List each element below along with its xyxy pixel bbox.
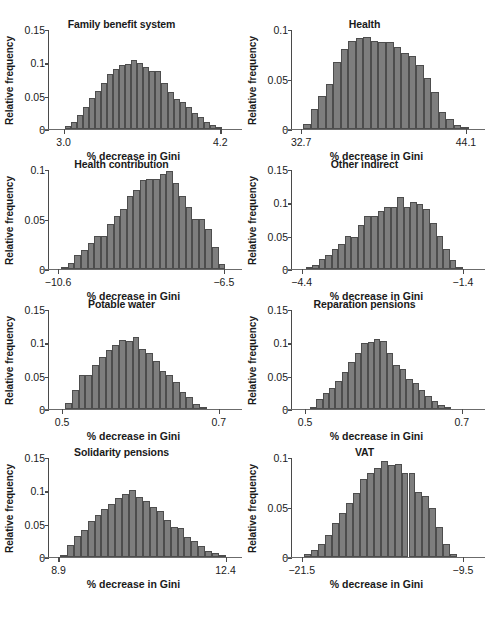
x-tick-label: −10.6	[45, 276, 72, 288]
x-tick-label-group: −4.4−1.4	[291, 150, 479, 290]
y-axis-label-text: Relative frequency	[247, 36, 258, 125]
x-tick-label: −1.4	[453, 276, 474, 288]
x-tick-label: −21.5	[288, 564, 315, 576]
histogram-panel: Potable waterRelative frequency00.050.10…	[0, 290, 243, 430]
x-tick-label: 44.1	[456, 136, 476, 148]
y-axis-label-text: Relative frequency	[247, 316, 258, 405]
x-tick-label-group: −21.5−9.5	[291, 430, 479, 570]
x-tick-label: 4.2	[213, 136, 228, 148]
y-axis-label-text: Relative frequency	[4, 36, 15, 125]
histogram-panel: HealthRelative frequency00.050.132.744.1…	[243, 10, 486, 150]
histogram-panel: Solidarity pensionsRelative frequency00.…	[0, 430, 243, 585]
x-tick-label-group: 3.04.2	[48, 10, 236, 150]
x-tick-label-group: 8.912.4	[48, 430, 236, 570]
x-axis-label: % decrease in Gini	[24, 578, 243, 590]
histogram-panel: Family benefit systemRelative frequency0…	[0, 10, 243, 150]
x-tick-label: 0.5	[298, 416, 313, 428]
y-axis-label-text: Relative frequency	[247, 464, 258, 553]
x-tick-label-group: −10.6−6.5	[48, 150, 236, 290]
x-tick-label: 3.0	[56, 136, 71, 148]
x-tick-label-group: 0.50.7	[291, 290, 479, 430]
y-tick-label-group: 00.050.10.15	[14, 430, 48, 570]
x-axis-label: % decrease in Gini	[267, 578, 486, 590]
histogram-panel: VATRelative frequency00.050.1−21.5−9.5% …	[243, 430, 486, 585]
x-tick-label: 0.5	[55, 416, 70, 428]
histogram-panel-grid: Family benefit systemRelative frequency0…	[0, 10, 486, 596]
y-axis-label-text: Relative frequency	[247, 176, 258, 265]
x-tick-label: −6.5	[213, 276, 234, 288]
x-tick-label: 0.7	[454, 416, 469, 428]
x-tick-label: 0.7	[211, 416, 226, 428]
histogram-panel: Health contributionRelative frequency00.…	[0, 150, 243, 290]
x-tick-label: 32.7	[291, 136, 311, 148]
x-tick-label: −4.4	[291, 276, 312, 288]
x-tick-label: −9.5	[453, 564, 474, 576]
histogram-panel: Reparation pensionsRelative frequency00.…	[243, 290, 486, 430]
x-tick-label-group: 0.50.7	[48, 290, 236, 430]
y-axis-label-text: Relative frequency	[4, 176, 15, 265]
histogram-panel: Other indirectRelative frequency00.050.1…	[243, 150, 486, 290]
y-axis-label-text: Relative frequency	[4, 316, 15, 405]
y-axis-label-text: Relative frequency	[4, 464, 15, 553]
y-tick-label-group: 00.050.1	[257, 430, 291, 570]
x-tick-label: 8.9	[51, 564, 66, 576]
x-tick-label: 12.4	[215, 564, 235, 576]
x-tick-label-group: 32.744.1	[291, 10, 479, 150]
